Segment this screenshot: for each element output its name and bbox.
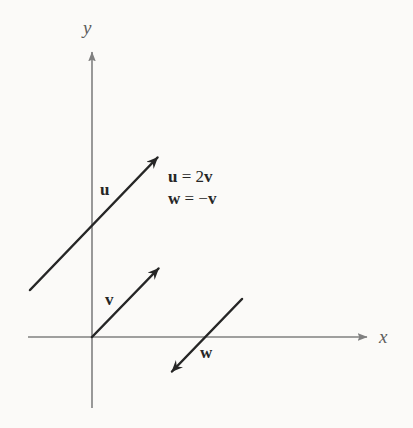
vector-u-shaft <box>30 158 158 291</box>
vector-u <box>30 158 158 291</box>
equation-line-w-lhs: w <box>168 189 180 208</box>
y-axis-label: y <box>83 18 91 37</box>
equation-annotation: u = 2v w = −v <box>168 166 216 210</box>
coordinate-axes <box>28 52 367 408</box>
x-axis-label: x <box>379 327 387 346</box>
equation-line-w-operator: = − <box>180 189 208 208</box>
equation-line-u-rhs: v <box>204 167 213 186</box>
equation-line-w-rhs: v <box>208 189 217 208</box>
equation-line-u: u = 2v <box>168 166 216 188</box>
vector-v-label: v <box>105 291 114 308</box>
vector-v-shaft <box>92 269 159 338</box>
vector-diagram-figure: y x u v w u = 2v w = −v <box>0 0 413 428</box>
vector-w-label: w <box>200 344 212 361</box>
equation-line-u-operator: = 2 <box>177 167 204 186</box>
vector-v <box>92 269 159 338</box>
vector-diagram-canvas <box>0 0 413 428</box>
equation-line-w: w = −v <box>168 188 216 210</box>
vector-u-label: u <box>100 181 109 198</box>
